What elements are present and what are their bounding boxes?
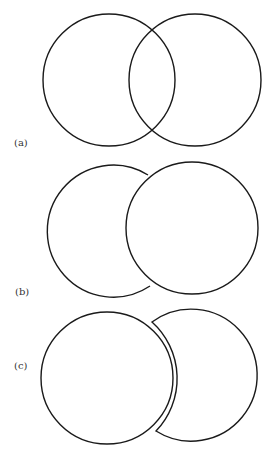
panel-b [47, 162, 258, 297]
panel-a [43, 14, 261, 146]
panel-c-left-circle [41, 312, 173, 444]
panel-b-left-occluded-circle [47, 165, 150, 297]
panel-c-label: (c) [14, 360, 27, 371]
panel-a-label: (a) [14, 137, 28, 148]
panel-b-label: (b) [15, 286, 29, 297]
panel-b-right-circle [126, 162, 258, 294]
panel-a-right-circle [129, 14, 261, 146]
panel-a-left-circle [43, 14, 175, 146]
figure-canvas [0, 0, 278, 457]
panel-c [41, 309, 257, 444]
panel-c-right-crescent [152, 309, 257, 441]
